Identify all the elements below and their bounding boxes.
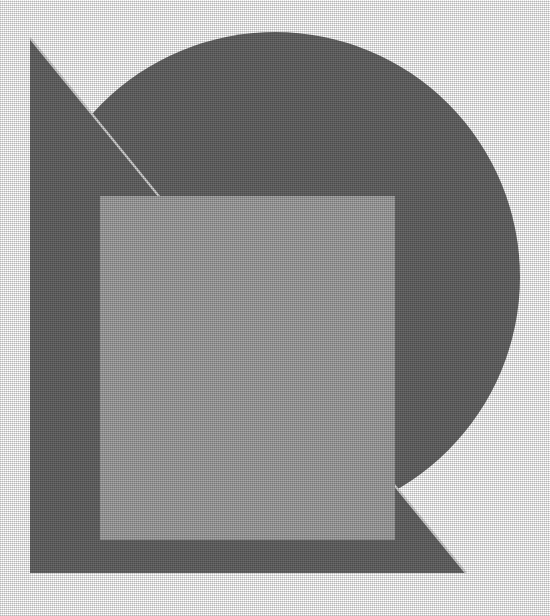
image-canvas: Geometric Shapes Composition Triangle Ci…: [0, 0, 550, 616]
geometric-composition-svg: [0, 0, 550, 616]
light-gray-square: [100, 196, 395, 540]
